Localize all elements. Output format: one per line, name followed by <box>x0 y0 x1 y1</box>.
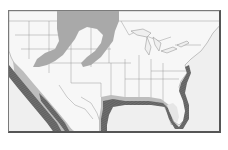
range-map <box>9 11 221 133</box>
map-frame <box>8 10 221 133</box>
